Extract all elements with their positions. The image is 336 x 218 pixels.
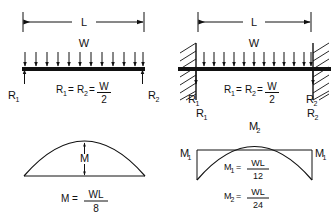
svg-text:WL: WL xyxy=(251,158,265,168)
fixed-beam-load-label: W xyxy=(249,37,260,49)
simple-beam-reaction-left-label: R 1 xyxy=(8,89,20,103)
simple-beam-reaction-arrows xyxy=(25,70,143,84)
simple-beam-load-arrows xyxy=(25,52,143,66)
svg-text:=: = xyxy=(72,193,78,204)
svg-text:12: 12 xyxy=(253,171,263,181)
fixed-beam-right-support xyxy=(313,43,329,100)
fixed-beam-dimension-L: L xyxy=(198,12,311,32)
svg-text:=: = xyxy=(236,84,242,95)
simple-beam-member xyxy=(22,67,145,71)
svg-text:1: 1 xyxy=(323,154,327,161)
svg-text:1: 1 xyxy=(231,167,235,174)
simple-beam-reaction-right-label: R 2 xyxy=(148,89,160,103)
svg-text:=: = xyxy=(236,191,241,201)
simple-beam-group: L W xyxy=(8,12,160,105)
fixed-beam-member xyxy=(178,67,331,71)
svg-text:WL: WL xyxy=(251,187,265,197)
svg-text:1: 1 xyxy=(16,96,20,103)
svg-text:1: 1 xyxy=(204,114,208,121)
svg-text:W: W xyxy=(99,81,109,92)
svg-text:8: 8 xyxy=(93,203,99,214)
fixed-beam-load-arrows xyxy=(204,52,311,66)
fixed-beam-reaction-arrows xyxy=(196,71,313,84)
fixed-moment-reaction-left-label: R 1 xyxy=(196,107,208,121)
svg-text:2: 2 xyxy=(315,114,319,121)
svg-text:W: W xyxy=(267,81,277,92)
simple-beam-span-label: L xyxy=(81,16,87,28)
fixed-moment-diagram-group: R 1 R 2 M 2 M 1 xyxy=(180,107,327,210)
fixed-moment-formula-m1: M 1 = WL 12 xyxy=(224,158,269,181)
fixed-moment-reaction-right-label: R 2 xyxy=(307,107,319,121)
simple-moment-formula: M = WL 8 xyxy=(61,189,108,214)
svg-text:2: 2 xyxy=(314,100,318,107)
svg-text:1: 1 xyxy=(188,154,192,161)
svg-text:1: 1 xyxy=(231,90,235,97)
svg-text:2: 2 xyxy=(156,96,160,103)
svg-text:=: = xyxy=(257,84,263,95)
svg-text:2: 2 xyxy=(252,90,256,97)
svg-text:=: = xyxy=(89,84,95,95)
fixed-beam-span-label: L xyxy=(251,16,257,28)
svg-text:2: 2 xyxy=(269,94,275,105)
svg-text:WL: WL xyxy=(89,189,104,200)
simple-moment-peak-label: M xyxy=(80,152,89,164)
svg-text:M: M xyxy=(61,193,69,204)
simple-beam-dimension-L: L xyxy=(23,12,144,32)
svg-text:2: 2 xyxy=(101,94,107,105)
fixed-beam-reaction-left-label: R 1 xyxy=(188,93,200,107)
svg-text:1: 1 xyxy=(63,90,67,97)
fixed-beam-left-support xyxy=(180,43,196,100)
figure-canvas: L W xyxy=(0,0,336,218)
fixed-beam-group: L W xyxy=(178,12,331,107)
fixed-moment-peak-label: M 2 xyxy=(249,120,261,134)
svg-text:2: 2 xyxy=(257,127,261,134)
simple-beam-load-label: W xyxy=(79,37,90,49)
svg-text:=: = xyxy=(236,162,241,172)
svg-text:2: 2 xyxy=(231,196,235,203)
fixed-moment-end-left-label: M 1 xyxy=(180,147,192,161)
svg-text:1: 1 xyxy=(196,100,200,107)
fixed-beam-reaction-right-label: R 2 xyxy=(306,93,318,107)
svg-text:24: 24 xyxy=(253,200,263,210)
fixed-moment-end-right-label: M 1 xyxy=(315,147,327,161)
simple-beam-reaction-formula: R 1 = R 2 = W 2 xyxy=(56,81,111,105)
svg-text:2: 2 xyxy=(84,90,88,97)
simple-moment-diagram-group: M M = WL 8 xyxy=(24,141,145,214)
beam-diagram-figure: L W xyxy=(0,0,336,218)
fixed-moment-formula-m2: M 2 = WL 24 xyxy=(224,187,269,210)
fixed-beam-reaction-formula: R 1 = R 2 = W 2 xyxy=(224,81,279,105)
svg-text:=: = xyxy=(68,84,74,95)
